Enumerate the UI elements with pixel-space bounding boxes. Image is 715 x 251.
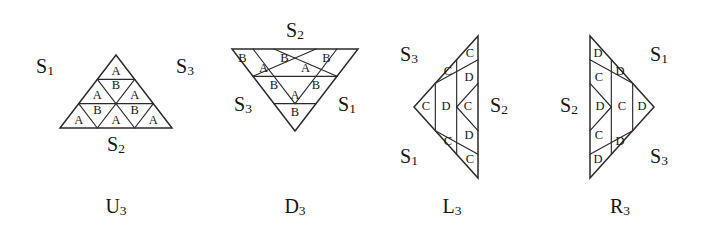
l3-cell-c1r1: C [466,46,474,60]
d3-side-label-s2: S2 [286,19,304,43]
u3-side-label-s3: S3 [176,55,194,79]
r3-caption: R3 [610,195,630,219]
u3-cell-r3c2: B [93,103,101,117]
l3-cell-c4r1: C [444,134,452,148]
d3-cell-r2c2: A [290,88,299,102]
u3-cell-r2c1: A [93,88,102,102]
u3-cell-r3c4: B [131,103,139,117]
l3-caption: L3 [443,195,462,219]
d3-cell-r2c3: B [312,78,320,92]
r3-side-label-s1: S1 [650,43,668,67]
u3-cell-r2c2: B [112,78,120,92]
d3-cell-r2c1: B [270,78,278,92]
d3-cell-r1c4: A [301,61,310,75]
panel-u3: A A B A A B A B A S1 S3 S2 U3 [36,55,194,219]
d3-cell-r1c1: B [238,51,246,65]
u3-side-label-s2: S2 [107,133,125,157]
r3-cell-c1r1: D [593,46,602,60]
figure-container: A A B A A B A B A S1 S3 S2 U3 [0,0,715,251]
r3-side-label-s3: S3 [650,145,668,169]
l3-side-label-s2: S2 [490,94,508,118]
l3-cell-c2r2: D [464,70,473,84]
panel-r3: D C D D C D C D D S1 S2 S3 R3 [560,36,668,218]
u3-cell-r2c3: A [130,88,139,102]
l3-side-label-s3: S3 [400,43,418,67]
d3-side-label-s1: S1 [338,93,356,117]
l3-cell-c2r1: C [444,64,452,78]
r3-cell-c2r2: D [615,64,624,78]
panel-l3: C C D C D C C D C S3 S2 S1 L3 [400,36,508,218]
d3-cell-r1c5: B [322,51,330,65]
u3-cell-r1c1: A [111,64,120,78]
l3-cell-c3r1: C [422,99,430,113]
r3-cell-c3r1: D [595,99,604,113]
r3-cell-c3r3: D [637,99,646,113]
l3-cell-c4r2: D [464,128,473,142]
r3-cell-c2r1: C [595,70,603,84]
l3-cell-c3r3: C [464,99,472,113]
panel-d3: B A B A B B A B B S2 S3 S1 D3 [232,19,358,219]
l3-cell-c3r2: D [441,99,450,113]
r3-cell-c4r1: C [595,128,603,142]
r3-cell-c5r1: D [593,152,602,166]
d3-side-label-s3: S3 [234,93,252,117]
d3-cell-r1c2: A [259,61,268,75]
d3-cell-r3c1: B [291,105,299,119]
u3-side-label-s1: S1 [36,55,54,79]
l3-side-label-s1: S1 [400,145,418,169]
d3-caption: D3 [284,195,305,219]
triangular-tilings-diagram: A A B A A B A B A S1 S3 S2 U3 [0,0,715,251]
d3-cell-r1c3: B [280,51,288,65]
r3-cell-c4r2: D [615,134,624,148]
l3-cell-c5r1: C [466,152,474,166]
u3-cell-r3c3: A [111,113,120,127]
u3-caption: U3 [105,195,126,219]
u3-cell-r3c1: A [74,113,83,127]
r3-cell-c3r2: C [618,99,626,113]
r3-side-label-s2: S2 [560,94,578,118]
u3-cell-r3c5: A [149,113,158,127]
